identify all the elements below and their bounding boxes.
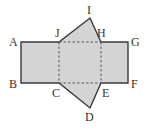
label-J: J — [55, 26, 60, 40]
net-outline — [21, 18, 128, 108]
prism-net-diagram: A B C D E F G H I J — [0, 0, 149, 131]
label-I: I — [87, 3, 91, 17]
label-D: D — [85, 110, 94, 124]
label-E: E — [102, 86, 109, 100]
label-C: C — [52, 86, 60, 100]
label-B: B — [9, 77, 17, 91]
label-A: A — [9, 35, 18, 49]
label-H: H — [97, 26, 106, 40]
label-F: F — [131, 77, 138, 91]
label-G: G — [131, 35, 140, 49]
